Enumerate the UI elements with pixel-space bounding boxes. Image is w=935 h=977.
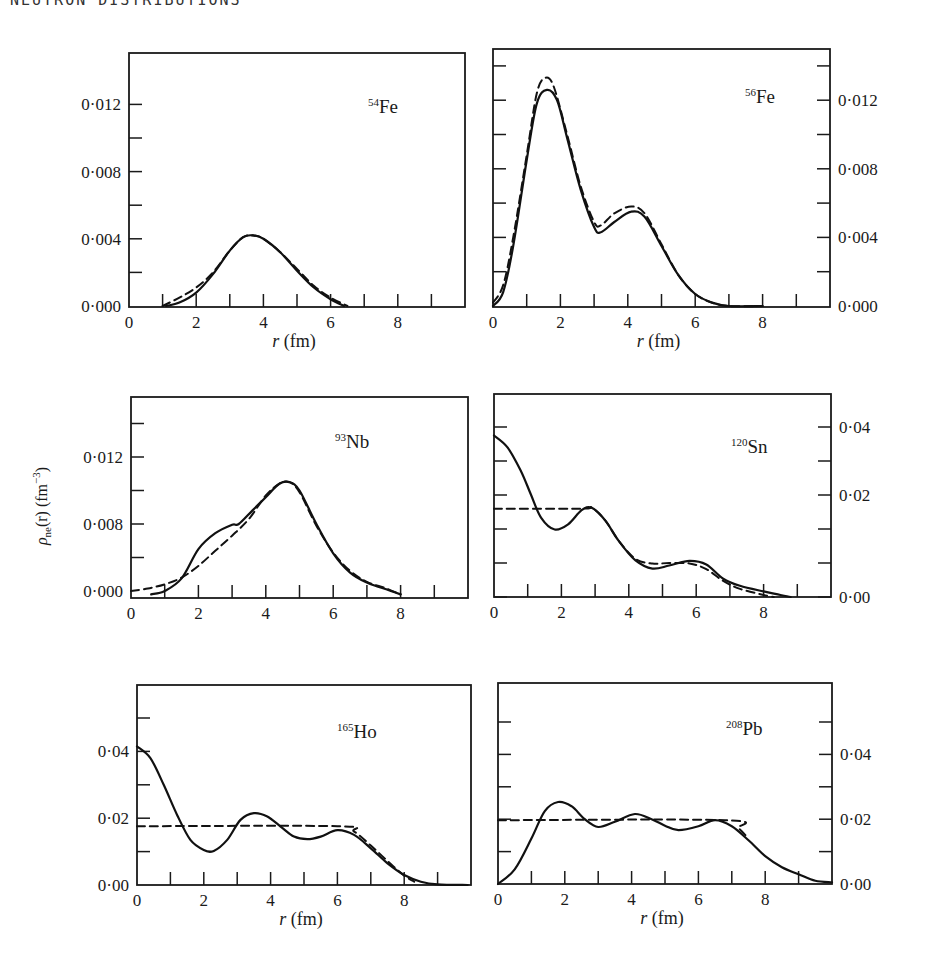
nucleus-element: Pb [743, 718, 763, 739]
y-tick-label: 0·000 [838, 297, 878, 316]
x-axis-label-var: r [279, 909, 291, 929]
x-tick-label: 8 [396, 604, 405, 623]
x-tick-label: 6 [691, 313, 700, 332]
y-tick-label: 0·000 [83, 582, 123, 601]
x-tick-label: 6 [329, 604, 338, 623]
series-solid-line [151, 481, 400, 594]
plot-frame [131, 397, 468, 598]
panel-nb93: 024680·0000·0080·01293Nb [83, 397, 468, 623]
y-axis-label: ρne(r) (fm−3) [30, 467, 53, 546]
x-tick-label: 4 [262, 604, 271, 623]
y-axis-label-close: ) [33, 467, 51, 472]
x-tick-label: 6 [333, 891, 342, 910]
nucleus-element: Nb [346, 431, 369, 452]
nucleus-label: 208Pb [726, 718, 763, 739]
x-tick-label: 8 [761, 890, 770, 909]
nucleus-mass-number: 120 [731, 436, 748, 448]
x-axis-label-var: r [640, 908, 652, 928]
nucleus-label: 93Nb [335, 431, 369, 452]
nucleus-element: Ho [354, 721, 377, 742]
nucleus-mass-number: 93 [335, 431, 347, 443]
y-tick-label: 0·008 [838, 160, 878, 179]
plot-frame [137, 685, 471, 885]
y-tick-label: 0·012 [838, 91, 878, 110]
x-tick-label: 0 [489, 313, 498, 332]
x-tick-label: 2 [194, 604, 203, 623]
x-tick-label: 4 [266, 891, 275, 910]
y-axis-label-symbol: ρ [33, 537, 51, 546]
x-tick-label: 0 [133, 891, 142, 910]
y-tick-label: 0·000 [81, 297, 121, 316]
y-tick-label: 0·02 [98, 809, 129, 828]
x-tick-label: 0 [125, 313, 134, 332]
y-tick-label: 0·04 [840, 745, 872, 764]
nucleus-element: Fe [756, 86, 775, 107]
x-tick-label: 0 [490, 603, 499, 622]
nucleus-element: Fe [379, 96, 398, 117]
nucleus-mass-number: 56 [745, 86, 757, 98]
nucleus-label: 120Sn [731, 436, 768, 457]
y-axis-label-subscript: ne [41, 527, 53, 538]
x-tick-label: 0 [127, 604, 136, 623]
panel-pb208: 02468r (fm)0·000·020·04208Pb [494, 683, 872, 929]
x-axis-label-unit: (fm) [291, 909, 323, 930]
y-tick-label: 0·004 [81, 230, 121, 249]
y-tick-label: 0·02 [839, 486, 870, 505]
x-tick-label: 2 [561, 890, 570, 909]
x-axis-label: r (fm) [637, 331, 681, 352]
y-tick-label: 0·008 [83, 515, 123, 534]
y-tick-label: 0·012 [81, 95, 121, 114]
nucleus-element: Sn [748, 436, 769, 457]
nucleus-mass-number: 208 [726, 718, 743, 730]
y-tick-label: 0·04 [98, 742, 130, 761]
x-tick-label: 8 [394, 313, 403, 332]
figure: 02468r (fm)0·0000·0040·0080·01254Fe02468… [0, 0, 935, 977]
x-tick-label: 4 [627, 890, 636, 909]
y-tick-label: 0·012 [83, 448, 123, 467]
x-axis-label-unit: (fm) [652, 908, 684, 929]
y-tick-label: 0·00 [840, 875, 871, 894]
x-tick-label: 4 [624, 313, 633, 332]
panel-fe54: 02468r (fm)0·0000·0040·0080·01254Fe [81, 53, 465, 352]
series-solid-line [166, 235, 344, 306]
nucleus-mass-number: 165 [337, 721, 354, 733]
x-tick-label: 2 [192, 313, 201, 332]
x-axis-label: r (fm) [640, 908, 684, 929]
panels: 02468r (fm)0·0000·0040·0080·01254Fe02468… [81, 49, 878, 930]
y-tick-label: 0·008 [81, 163, 121, 182]
x-tick-label: 2 [200, 891, 209, 910]
series-solid-line [137, 746, 468, 885]
x-tick-label: 4 [259, 313, 268, 332]
panel-fe56: 02468r (fm)0·0000·0040·0080·01256Fe [489, 49, 878, 352]
series-dashed-line [163, 235, 348, 306]
x-tick-label: 8 [758, 313, 767, 332]
x-axis-label-var: r [637, 331, 649, 351]
series-solid-line [493, 90, 763, 306]
y-tick-label: 0·00 [839, 588, 870, 607]
x-axis-label-unit: (fm) [648, 331, 680, 352]
x-tick-label: 2 [557, 603, 566, 622]
nucleus-mass-number: 54 [368, 96, 380, 108]
nucleus-label: 165Ho [337, 721, 377, 742]
x-axis-label-unit: (fm) [284, 331, 316, 352]
plot-frame [498, 683, 832, 884]
x-tick-label: 6 [692, 603, 701, 622]
panel-ho165: 02468r (fm)0·000·020·04165Ho [98, 685, 471, 930]
nucleus-label: 54Fe [368, 96, 398, 117]
plot-frame [493, 49, 830, 307]
x-tick-label: 6 [326, 313, 335, 332]
x-axis-label: r (fm) [272, 331, 316, 352]
y-axis-label-exponent: −3 [30, 472, 42, 484]
series-dashed-line [493, 77, 763, 306]
y-tick-label: 0·004 [838, 228, 878, 247]
x-tick-label: 0 [494, 890, 503, 909]
x-tick-label: 8 [400, 891, 409, 910]
y-axis-label-rest: (r) (fm [33, 483, 51, 527]
x-tick-label: 2 [556, 313, 565, 332]
x-axis-label: r (fm) [279, 909, 323, 930]
x-tick-label: 6 [694, 890, 703, 909]
nucleus-label: 56Fe [745, 86, 775, 107]
y-tick-label: 0·04 [839, 418, 871, 437]
x-tick-label: 4 [625, 603, 634, 622]
series-dashed-line [137, 826, 414, 882]
